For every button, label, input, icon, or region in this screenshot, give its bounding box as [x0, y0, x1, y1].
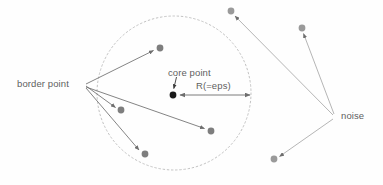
core-point-pointer-arrow: [174, 77, 177, 89]
core-point-label: core point: [168, 67, 211, 78]
dbscan-diagram: [0, 0, 383, 185]
border-arrow-4: [86, 88, 139, 150]
border-arrow-2: [86, 86, 116, 108]
diagram-canvas: border point core point R(=eps) noise: [0, 0, 383, 185]
core-point-dot: [170, 92, 177, 99]
border-point-dot: [118, 107, 125, 114]
border-point-dot: [208, 128, 215, 135]
eps-radius-label: R(=eps): [196, 80, 231, 91]
noise-point-dot: [271, 156, 278, 163]
noise-arrows: [235, 16, 334, 157]
border-arrow-3: [86, 87, 205, 129]
border-point-dot: [157, 45, 164, 52]
noise-points: [228, 8, 306, 163]
border-point-dot: [142, 151, 149, 158]
border-arrow-1: [86, 51, 154, 85]
noise-label: noise: [341, 110, 364, 121]
noise-arrow-2: [304, 34, 335, 115]
noise-point-dot: [299, 25, 306, 32]
border-point-label: border point: [17, 78, 69, 89]
noise-point-dot: [228, 8, 235, 15]
border-point-arrows: [86, 51, 205, 151]
noise-arrow-1: [235, 16, 333, 115]
noise-arrow-3: [280, 119, 334, 157]
